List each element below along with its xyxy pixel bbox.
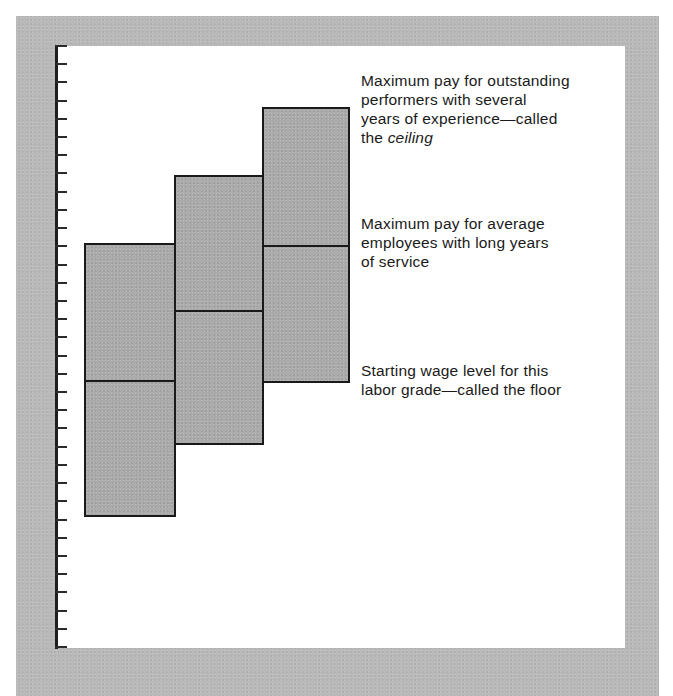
axis-tick [55, 591, 67, 593]
axis-tick [55, 555, 67, 557]
midpoint-line-grade-3 [264, 245, 348, 247]
axis-tick [55, 264, 67, 266]
axis-tick [55, 464, 67, 466]
pay-range-box-grade-3 [262, 107, 350, 383]
axis-tick [55, 63, 67, 65]
annotation-floor: Starting wage level for this labor grade… [361, 361, 641, 399]
axis-tick [55, 373, 67, 375]
axis-tick [55, 628, 67, 630]
annotation-ceiling-line-1: Maximum pay for outstanding [361, 71, 641, 90]
axis-tick [55, 100, 67, 102]
axis-tick [55, 610, 67, 612]
annotation-ceiling: Maximum pay for outstanding performers w… [361, 71, 641, 147]
axis-tick [55, 427, 67, 429]
axis-tick [55, 45, 67, 47]
axis-tick [55, 355, 67, 357]
axis-tick [55, 336, 67, 338]
axis-tick [55, 391, 67, 393]
annotation-ceiling-line-3: years of experience—called [361, 109, 641, 128]
axis-tick [55, 300, 67, 302]
annotation-ceiling-prefix: the [361, 129, 388, 146]
axis-tick [55, 646, 67, 648]
axis-tick [55, 537, 67, 539]
annotation-ceiling-line-2: performers with several [361, 90, 641, 109]
axis-tick [55, 154, 67, 156]
annotation-average-line-2: employees with long years [361, 233, 641, 252]
axis-tick [55, 318, 67, 320]
axis-tick [55, 136, 67, 138]
annotation-average-line-1: Maximum pay for average [361, 214, 641, 233]
midpoint-line-grade-2 [176, 310, 262, 312]
annotation-average-max: Maximum pay for average employees with l… [361, 214, 641, 271]
axis-tick [55, 519, 67, 521]
midpoint-line-grade-1 [86, 380, 174, 382]
annotation-floor-line-1: Starting wage level for this [361, 361, 641, 380]
axis-tick [55, 118, 67, 120]
axis-tick [55, 446, 67, 448]
axis-tick [55, 482, 67, 484]
pay-range-box-grade-2 [174, 175, 264, 445]
axis-tick [55, 191, 67, 193]
axis-tick [55, 282, 67, 284]
annotation-ceiling-line-4: the ceiling [361, 128, 641, 147]
axis-tick [55, 81, 67, 83]
axis-tick [55, 209, 67, 211]
ceiling-term: ceiling [388, 129, 433, 146]
annotation-floor-line-2: labor grade—called the floor [361, 380, 641, 399]
axis-tick [55, 573, 67, 575]
annotation-average-line-3: of service [361, 252, 641, 271]
axis-tick [55, 409, 67, 411]
axis-tick [55, 227, 67, 229]
axis-tick [55, 500, 67, 502]
axis-tick [55, 172, 67, 174]
pay-range-box-grade-1 [84, 243, 176, 517]
axis-tick [55, 245, 67, 247]
